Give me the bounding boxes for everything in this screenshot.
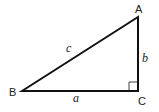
- side-label-c: c: [66, 41, 72, 55]
- vertex-label-c: C: [138, 95, 146, 107]
- vertex-label-a: A: [135, 3, 143, 15]
- side-label-a: a: [73, 91, 79, 105]
- right-angle-marker: [129, 82, 138, 91]
- triangle: [22, 17, 138, 91]
- vertex-label-b: B: [9, 86, 16, 98]
- triangle-diagram: A B C a b c: [0, 0, 159, 112]
- side-label-b: b: [142, 51, 148, 65]
